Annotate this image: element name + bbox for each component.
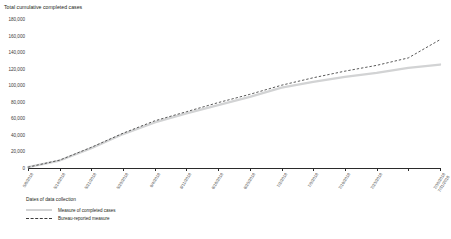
chart-legend: Dates of data collection Measure of comp… xyxy=(26,197,116,224)
legend-label-bureau-reported-measure: Bureau-reported measure xyxy=(58,216,110,221)
legend-item-measure-of-completed-cases: Measure of completed cases xyxy=(26,207,116,214)
legend-swatch-solid-line-icon xyxy=(26,207,52,214)
legend-item-bureau-reported-measure: Bureau-reported measure xyxy=(26,215,116,222)
legend-swatch-dashed-line-icon xyxy=(26,215,52,222)
series-line-measure-of-completed-cases xyxy=(28,65,440,168)
series-line-bureau-reported-measure xyxy=(28,40,440,167)
legend-title: Dates of data collection xyxy=(26,197,116,202)
legend-label-measure-of-completed-cases: Measure of completed cases xyxy=(58,208,116,213)
